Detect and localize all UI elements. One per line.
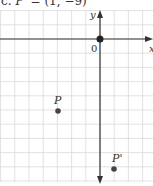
grid-lines	[0, 10, 153, 182]
origin-point	[97, 36, 104, 43]
y-axis-down-arrow-icon	[97, 176, 103, 184]
y-axis-label: y	[89, 9, 96, 20]
point-p-prime-label: P'	[111, 152, 122, 165]
x-axis-arrow-icon	[145, 36, 153, 42]
x-axis	[0, 36, 153, 42]
point-p	[55, 108, 61, 114]
x-axis-label: x	[149, 43, 153, 54]
coordinate-plane: 0 y x P P'	[0, 0, 153, 186]
point-p-prime	[111, 166, 117, 172]
origin-label: 0	[91, 43, 97, 54]
y-axis-up-arrow-icon	[97, 10, 103, 18]
point-p-label: P	[53, 94, 62, 107]
